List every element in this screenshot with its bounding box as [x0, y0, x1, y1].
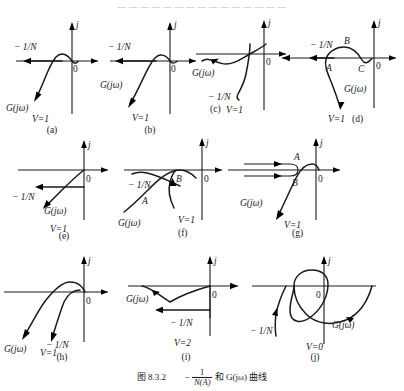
label-g-jw-j: G(jω)	[332, 320, 355, 331]
subplot-j: 0 j G(jω) − 1/N V=0	[250, 252, 380, 356]
minus-one-over-n-ray-b	[115, 58, 156, 65]
label-g-jw-i: G(jω)	[126, 294, 149, 305]
fraction-numerator: 1	[192, 368, 213, 377]
label-imag-axis-f: j	[204, 138, 209, 148]
label-point-a-g: A	[293, 152, 300, 162]
subplot-caption-j: (j)	[250, 352, 380, 362]
g-jw-arrowhead-d	[339, 102, 345, 110]
fraction-denominator: N(A)	[192, 377, 213, 387]
subplot-caption-b: (b)	[100, 125, 200, 135]
label-neg-inv-n-j: − 1/N	[250, 326, 273, 336]
label-neg-inv-n-i: − 1/N	[170, 318, 193, 328]
label-point-b-d: B	[344, 36, 350, 46]
imag-axis-arrowhead	[167, 22, 173, 30]
minus-one-over-n-ray-e	[35, 184, 84, 191]
imag-axis-arrowhead	[261, 20, 267, 28]
subplot-caption-e: (e)	[12, 231, 116, 241]
label-origin-f: 0	[204, 174, 209, 184]
label-origin-a: 0	[73, 64, 78, 74]
subplot-a: − 1/N 0 j G(jω) V=1	[2, 14, 102, 126]
neg-inv-n-arrowhead	[35, 184, 43, 191]
g-jw-curve-f-loop	[169, 170, 176, 208]
real-axis-arrowhead	[333, 167, 340, 173]
label-point-b-f: B	[176, 174, 182, 184]
label-imag-axis-e: j	[86, 140, 91, 150]
axes-a	[16, 22, 98, 114]
label-v-j: V=0	[306, 342, 323, 352]
label-neg-inv-n-b: − 1/N	[108, 42, 131, 52]
label-imag-axis-j: j	[326, 256, 331, 266]
label-imag-axis-g: j	[318, 138, 323, 148]
label-neg-inv-n-e: − 1/N	[12, 192, 35, 202]
g-jw-arrowhead-h	[22, 329, 30, 340]
real-axis-arrowhead	[101, 167, 108, 173]
minus-one-over-n-ray-d	[309, 55, 334, 62]
label-v-a: V=1	[32, 114, 49, 124]
real-axis-arrowhead	[215, 167, 222, 173]
subplot-g: A B 0 j G(jω) V=1	[228, 138, 346, 240]
label-g-jw-e: G(jω)	[44, 206, 67, 217]
label-point-b-g: B	[292, 178, 298, 188]
neg-inv-n-arrowhead-upper	[274, 161, 282, 167]
g-jw-curve-g	[278, 164, 319, 216]
label-g-jw-b: G(jω)	[100, 80, 123, 91]
neg-inv-n-curve-c	[237, 44, 250, 100]
real-axis-arrowhead	[91, 58, 98, 64]
label-g-jw-d: G(jω)	[344, 84, 367, 95]
label-origin-h: 0	[86, 296, 91, 306]
label-imag-axis-h: j	[86, 256, 91, 266]
label-v-d: V=1	[328, 114, 345, 124]
label-point-a-d: A	[325, 63, 332, 73]
imag-axis-arrowhead	[207, 256, 213, 264]
imag-axis-arrowhead	[69, 22, 75, 30]
label-origin-j: 0	[316, 290, 321, 300]
neg-inv-n-arrowhead-lower	[274, 173, 282, 179]
label-origin-e: 0	[86, 174, 91, 184]
g-jw-curve-e	[46, 170, 84, 206]
neg-inv-n-arrowhead	[155, 307, 163, 314]
g-jw-arrowhead-c	[211, 59, 220, 65]
label-origin-g: 0	[318, 174, 323, 184]
figure-page: — — — — — — — — — — — — — — — − 1/N 0 j …	[0, 0, 404, 391]
subplot-caption-f: (f)	[178, 228, 218, 238]
g-jw-curve-i	[142, 286, 210, 302]
label-imag-axis-c: j	[266, 18, 271, 28]
subplot-i: G(jω) − 1/N 0 j V=2	[126, 252, 246, 356]
minus-one-over-n-ray-a	[23, 58, 62, 65]
real-axis-left-arrowhead	[282, 55, 290, 61]
neg-inv-n-arrowhead-j	[272, 308, 278, 316]
subplot-caption-g: (g)	[292, 228, 332, 238]
subplot-caption-h: (h)	[4, 352, 120, 362]
label-g-jw-f: G(jω)	[118, 218, 141, 229]
label-g-jw-g: G(jω)	[240, 198, 263, 209]
label-origin-d: 0	[376, 61, 381, 71]
figure-number: 图 8.3.2	[137, 370, 166, 383]
subplot-caption-d: (d)	[352, 114, 392, 124]
figure-caption: 图 8.3.2 − 1 N(A) 和 G(jω) 曲线	[0, 368, 404, 387]
subplot-f: − 1/N B A 0 j G(jω) V=1	[118, 138, 230, 240]
subplot-caption-i: (i)	[126, 352, 246, 362]
label-point-a-f: A	[141, 196, 148, 206]
g-jw-arrowhead-a	[34, 92, 42, 103]
figure-caption-minus-sign: −	[185, 372, 190, 382]
subplot-b: − 1/N 0 j G(jω) V=1	[100, 14, 200, 126]
label-neg-inv-n-c: − 1/N	[208, 92, 231, 102]
neg-inv-n-arrowhead	[115, 58, 123, 65]
imag-axis-arrowhead	[199, 138, 205, 146]
axes-b	[110, 22, 196, 114]
label-neg-inv-n-d: − 1/N	[310, 40, 333, 50]
g-jw-arrowhead-b	[128, 98, 136, 109]
imag-axis-arrowhead	[81, 256, 87, 264]
label-imag-axis-b: j	[172, 20, 177, 30]
label-v-i: V=2	[174, 338, 191, 348]
neg-inverse-describing-function-fraction: 1 N(A)	[192, 368, 213, 387]
neg-inv-n-curve-h	[52, 290, 80, 338]
neg-inv-n-ray-i	[155, 307, 210, 314]
real-axis-arrowhead	[389, 55, 396, 61]
real-axis-arrowhead	[101, 289, 108, 295]
g-jw-lower-arc-j	[294, 286, 372, 323]
figure-caption-tail: 和 G(jω) 曲线	[215, 370, 267, 383]
label-g-jw-c: G(jω)	[192, 68, 215, 79]
label-origin-i: 0	[212, 290, 217, 300]
label-v-b: V=1	[132, 113, 149, 123]
